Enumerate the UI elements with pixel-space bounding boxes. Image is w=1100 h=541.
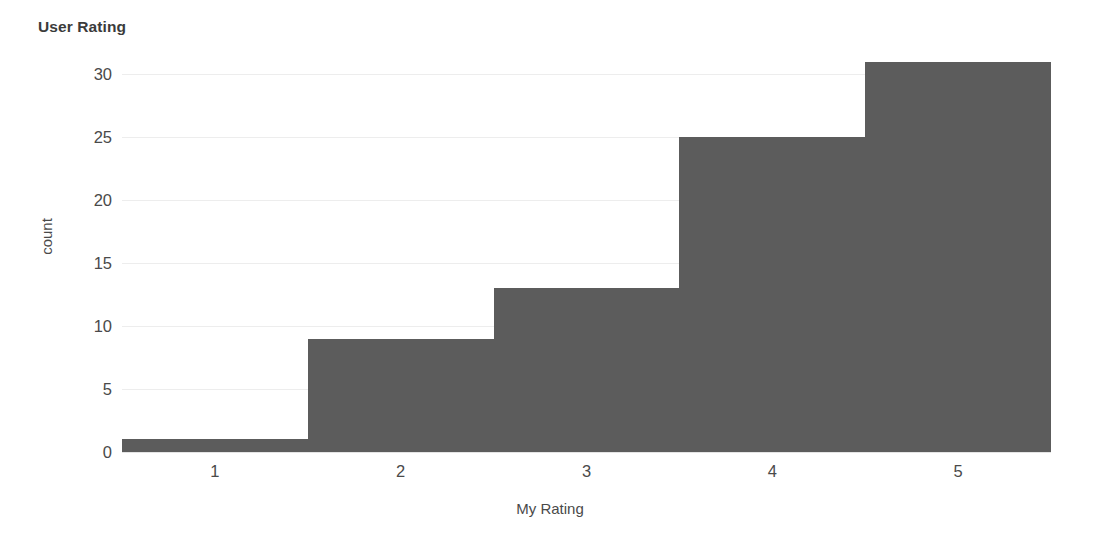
x-tick-label-4: 4 (742, 462, 802, 480)
y-axis-tick-labels: 051015202530 (60, 68, 112, 452)
x-tick-label-1: 1 (185, 462, 245, 480)
chart-page: User Rating count 051015202530 12345 My … (0, 0, 1100, 541)
x-tick-label-2: 2 (371, 462, 431, 480)
gridline-0 (122, 452, 1051, 453)
x-axis-tick-labels: 12345 (122, 462, 1051, 488)
bar-3[interactable] (494, 288, 680, 452)
y-tick-label-0: 0 (66, 444, 112, 461)
x-tick-label-5: 5 (928, 462, 988, 480)
y-tick-label-10: 10 (66, 318, 112, 335)
page-title: User Rating (38, 18, 126, 36)
y-tick-label-30: 30 (66, 66, 112, 83)
bar-2[interactable] (308, 339, 494, 452)
bar-5[interactable] (865, 62, 1051, 452)
y-tick-label-15: 15 (66, 255, 112, 272)
y-tick-label-25: 25 (66, 129, 112, 146)
x-axis-title: My Rating (0, 500, 1100, 517)
y-tick-label-5: 5 (66, 381, 112, 398)
y-axis-title: count (38, 218, 55, 255)
x-tick-label-3: 3 (557, 462, 617, 480)
bar-4[interactable] (679, 137, 865, 452)
plot-area (122, 68, 1051, 452)
y-tick-label-20: 20 (66, 192, 112, 209)
bar-1[interactable] (122, 439, 308, 452)
